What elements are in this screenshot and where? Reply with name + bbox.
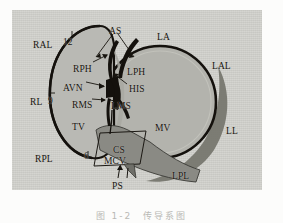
ps-leader-secondary [127, 168, 128, 178]
label-rms: RMS [72, 101, 92, 111]
label-lpl: LPL [172, 172, 189, 182]
figure-caption: 图 1-2 传导系图 [0, 210, 283, 223]
label-ll: LL [226, 127, 238, 137]
label-his: HIS [129, 85, 145, 95]
clock-marker-9: 9 [48, 97, 53, 107]
figure-root: RAL AS LA LAL RPH LPH AVN HIS RMS LMS RL… [0, 0, 283, 223]
clock-marker-6: 6 [84, 152, 89, 162]
anatomy-illustration [0, 0, 283, 223]
label-mcv: MCV [104, 157, 126, 167]
label-cs: CS [113, 146, 125, 156]
label-tv: TV [72, 123, 85, 133]
label-rph: RPH [73, 65, 92, 75]
label-ps: PS [112, 182, 123, 192]
label-rpl: RPL [35, 155, 53, 165]
clock-marker-12: 12 [63, 38, 73, 48]
label-lms: LMS [111, 102, 131, 112]
label-lal: LAL [212, 62, 231, 72]
label-mv: MV [155, 124, 171, 134]
label-as: AS [109, 27, 121, 37]
label-avn: AVN [63, 84, 83, 94]
figure-caption-text: 图 1-2 传导系图 [96, 210, 188, 222]
label-rl: RL [30, 98, 42, 108]
label-lph: LPH [127, 68, 145, 78]
label-la: LA [157, 33, 170, 43]
label-ral: RAL [33, 41, 52, 51]
